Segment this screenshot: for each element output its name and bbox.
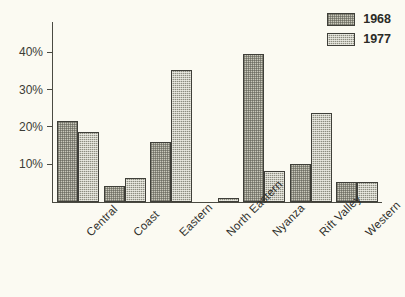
bar-group: [104, 24, 146, 202]
bar-group: [336, 24, 378, 202]
bar-central-1968: [57, 121, 78, 202]
y-axis-tick-label: 40%: [19, 45, 43, 59]
bar-group: [197, 24, 239, 202]
x-axis-label-eastern: Eastern: [177, 201, 215, 239]
x-axis-line: [52, 202, 382, 203]
x-axis-label-anchor: Nyanza: [270, 230, 271, 231]
bar-chart: 1968 1977 10%20%30%40% CentralCoastEaste…: [0, 0, 405, 297]
y-axis-tick-label: 30%: [19, 83, 43, 97]
x-axis-label-coast: Coast: [131, 208, 161, 238]
y-axis-tick-label: 20%: [19, 120, 43, 134]
x-axis-label-anchor: Rift Valley: [317, 230, 318, 231]
bar-coast-1977: [125, 178, 146, 202]
bar-north-eastern-1977: [218, 198, 239, 202]
x-axis-label-western: Western: [363, 199, 403, 239]
bar-group: [290, 24, 332, 202]
x-axis-label-anchor: Coast: [131, 230, 132, 231]
x-axis-label-nyanza: Nyanza: [270, 202, 307, 239]
bar-group: [57, 24, 99, 202]
bar-nyanza-1968: [243, 54, 264, 202]
bar-group: [243, 24, 285, 202]
y-axis-tick: 40%: [47, 52, 52, 53]
x-axis-label-anchor: Western: [363, 230, 364, 231]
y-axis-tick-label: 10%: [19, 157, 43, 171]
y-axis-tick: 30%: [47, 89, 52, 90]
bar-group: [150, 24, 192, 202]
plot-area: 10%20%30%40% CentralCoastEasternNorth Ea…: [52, 24, 382, 203]
bar-rift-valley-1977: [311, 113, 332, 202]
x-axis-label-anchor: Central: [84, 230, 85, 231]
x-axis-label-central: Central: [84, 203, 120, 239]
y-axis-tick: 20%: [47, 126, 52, 127]
y-axis-line: [52, 22, 53, 202]
bar-eastern-1968: [150, 142, 171, 202]
bar-central-1977: [78, 132, 99, 202]
bar-coast-1968: [104, 186, 125, 202]
x-axis-label-anchor: North Eastern: [224, 230, 225, 231]
x-axis-label-anchor: Eastern: [177, 230, 178, 231]
y-axis-tick: 10%: [47, 164, 52, 165]
bar-eastern-1977: [171, 70, 192, 202]
bar-rift-valley-1968: [290, 164, 311, 202]
